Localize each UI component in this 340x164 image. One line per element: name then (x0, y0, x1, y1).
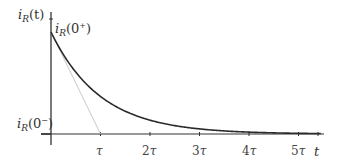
initial-value-minus-label: iR(0−) (17, 117, 53, 133)
decay-curve (51, 32, 321, 134)
initial-value-plus-label: iR(0+) (55, 22, 91, 38)
x-tick-label-3: 3τ (192, 145, 206, 157)
chart-plot-area (0, 0, 340, 164)
x-tick-label-5: 5τ (291, 145, 305, 157)
x-axis-label: t (314, 145, 319, 158)
y-axis-label: iR(t) (18, 8, 44, 24)
x-tick-label-1: τ (96, 145, 103, 157)
x-tick-label-2: 2τ (142, 145, 156, 157)
x-tick-label-4: 4τ (242, 145, 256, 157)
